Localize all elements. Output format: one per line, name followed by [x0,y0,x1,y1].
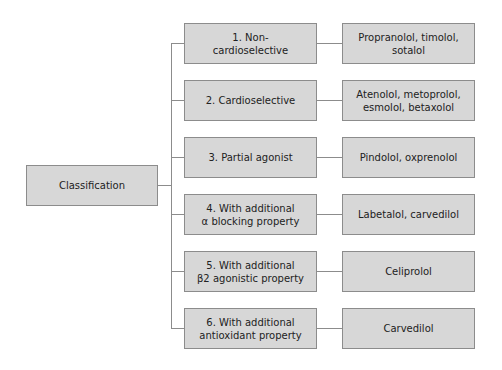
leaf-connector-1 [317,43,342,44]
branch-connector-2 [171,100,184,101]
branch-connector-5 [171,271,184,272]
branch-connector-3 [171,157,184,158]
category-label-line1: 6. With additional [199,316,301,329]
examples-box-beta2-agonistic: Celiprolol [342,251,475,292]
examples-label: Pindolol, oxprenolol [360,151,458,164]
category-box-antioxidant: 6. With additional antioxidant property [184,308,317,349]
branch-connector-6 [171,328,184,329]
examples-box-alpha-blocking: Labetalol, carvedilol [342,194,475,235]
examples-line2: esmolol, betaxolol [356,101,460,114]
leaf-connector-5 [317,271,342,272]
branch-connector-4 [171,214,184,215]
examples-box-antioxidant: Carvedilol [342,308,475,349]
leaf-connector-2 [317,100,342,101]
category-label-line2: cardioselective [213,44,288,57]
category-box-partial-agonist: 3. Partial agonist [184,137,317,178]
examples-line1: Propranolol, timolol, [358,31,458,44]
category-label: 2. Cardioselective [206,94,296,107]
category-box-cardioselective: 2. Cardioselective [184,80,317,121]
category-label-line2: β2 agonistic property [197,272,304,285]
leaf-connector-4 [317,214,342,215]
examples-box-partial-agonist: Pindolol, oxprenolol [342,137,475,178]
examples-line1: Atenolol, metoprolol, [356,88,460,101]
examples-line2: sotalol [358,44,458,57]
category-label-line1: 4. With additional [202,202,300,215]
category-label-line1: 1. Non- [213,31,288,44]
examples-box-non-cardioselective: Propranolol, timolol, sotalol [342,23,475,64]
root-connector [158,185,171,186]
branch-connector-1 [171,43,184,44]
classification-root-box: Classification [26,165,158,206]
category-label: 3. Partial agonist [208,151,292,164]
category-box-alpha-blocking: 4. With additional α blocking property [184,194,317,235]
category-label-line1: 5. With additional [197,259,304,272]
trunk-connector [171,43,172,329]
category-label-line2: antioxidant property [199,329,301,342]
classification-label: Classification [59,179,125,192]
examples-label: Carvedilol [383,322,433,335]
examples-label: Celiprolol [385,265,432,278]
examples-label: Labetalol, carvedilol [358,208,459,221]
leaf-connector-6 [317,328,342,329]
examples-box-cardioselective: Atenolol, metoprolol, esmolol, betaxolol [342,80,475,121]
category-label-line2: α blocking property [202,215,300,228]
leaf-connector-3 [317,157,342,158]
category-box-beta2-agonistic: 5. With additional β2 agonistic property [184,251,317,292]
category-box-non-cardioselective: 1. Non- cardioselective [184,23,317,64]
